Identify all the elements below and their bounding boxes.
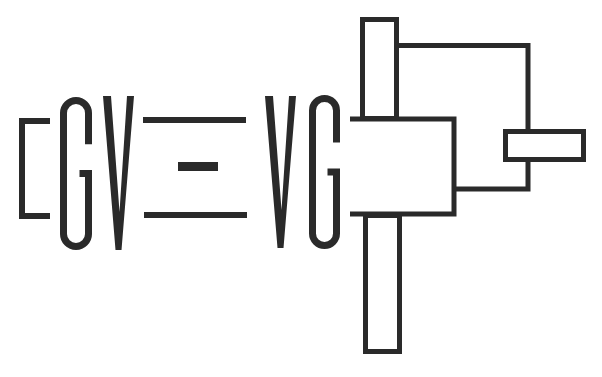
- center-box: [350, 119, 454, 214]
- top-bar: [363, 20, 397, 119]
- equals-middle-dash: [178, 162, 218, 171]
- equals-bottom-line: [144, 212, 247, 218]
- letter-g-0: [64, 101, 89, 247]
- letter-g-3: [313, 99, 337, 246]
- gv-vg-logo: [0, 0, 602, 377]
- letter-v-1: [103, 96, 134, 250]
- geometric-structure: [350, 20, 584, 352]
- bracket-shape: [22, 121, 50, 216]
- side-bar: [506, 132, 584, 160]
- equals-top-line: [143, 117, 246, 123]
- equals-sign: [143, 117, 247, 218]
- letter-v-2: [265, 96, 296, 248]
- left-bracket: [22, 121, 50, 216]
- bottom-bar: [366, 216, 400, 352]
